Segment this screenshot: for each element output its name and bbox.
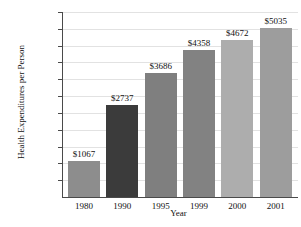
bar bbox=[221, 40, 253, 197]
gridline bbox=[63, 12, 298, 13]
plot-area: $500$1000$1500$2000$2500$3000$3500$4000$… bbox=[62, 12, 298, 197]
y-axis-tick bbox=[58, 46, 63, 47]
bar-value-label: $4672 bbox=[212, 28, 262, 38]
bar-value-label: $2737 bbox=[97, 93, 147, 103]
y-axis-tick bbox=[58, 96, 63, 97]
bar-value-label: $4358 bbox=[174, 38, 224, 48]
y-axis-tick bbox=[58, 29, 63, 30]
bar-chart: Health Expenditures per Person $500$1000… bbox=[0, 0, 301, 227]
y-axis-title: Health Expenditures per Person bbox=[16, 22, 26, 182]
y-axis-tick bbox=[58, 163, 63, 164]
y-axis-tick bbox=[58, 180, 63, 181]
bar bbox=[183, 50, 215, 197]
y-axis-tick bbox=[58, 147, 63, 148]
y-axis-tick bbox=[58, 62, 63, 63]
y-axis-tick bbox=[58, 79, 63, 80]
y-axis-tick bbox=[58, 113, 63, 114]
x-axis-line bbox=[62, 197, 298, 198]
y-axis-tick bbox=[58, 130, 63, 131]
y-axis-tick bbox=[58, 12, 63, 13]
bar bbox=[68, 161, 100, 197]
bar-value-label: $3686 bbox=[136, 61, 186, 71]
bar-value-label: $1067 bbox=[59, 149, 109, 159]
bar bbox=[260, 28, 292, 197]
bar bbox=[145, 73, 177, 197]
y-axis-line bbox=[62, 12, 63, 197]
bar-value-label: $5035 bbox=[251, 16, 301, 26]
x-axis-title: Year bbox=[28, 208, 301, 218]
bar bbox=[106, 105, 138, 197]
